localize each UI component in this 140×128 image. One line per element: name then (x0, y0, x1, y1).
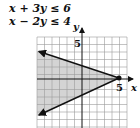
x-axis-label: x (130, 82, 138, 93)
x-tick-label: 5 (116, 82, 123, 93)
vertex-point (117, 76, 122, 81)
coordinate-graph: y 5 5 x (0, 0, 140, 128)
y-axis-label: y (72, 21, 80, 32)
y-tick-label: 5 (74, 38, 81, 49)
